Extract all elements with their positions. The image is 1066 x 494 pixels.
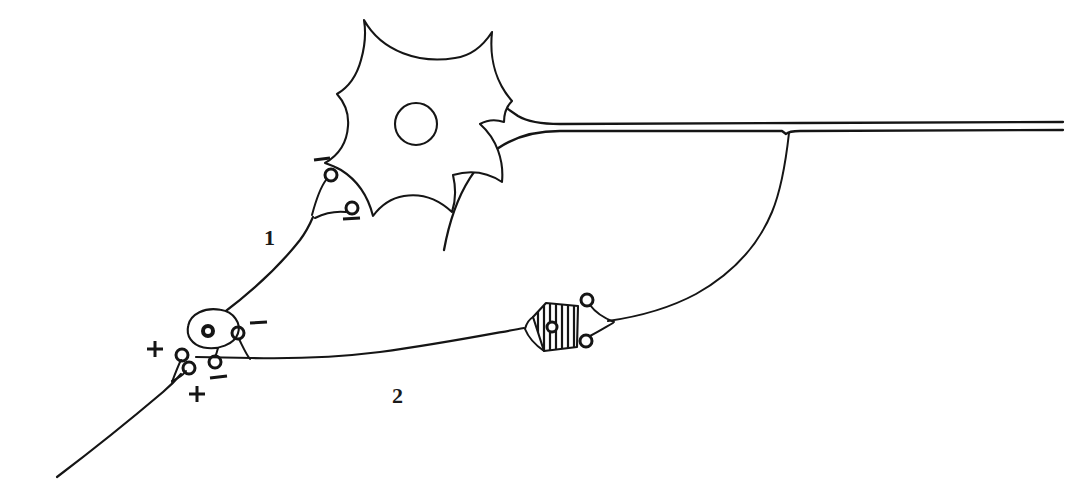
pathway-label-1: 1	[264, 225, 275, 250]
principal-axon	[444, 107, 1063, 250]
minus-sign-1	[250, 322, 267, 323]
bouton-excitatory-2	[183, 362, 195, 374]
interneuron-hatched-soma	[525, 298, 578, 356]
afferent-axon-input	[57, 341, 205, 477]
diagram-canvas: 1 2	[0, 0, 1066, 494]
plus-sign-1	[147, 341, 163, 357]
bouton-excitatory-1	[176, 349, 188, 361]
plus-sign-2	[189, 386, 205, 402]
interneuron-hatched-nucleus	[547, 322, 557, 332]
recurrent-collateral	[608, 133, 789, 321]
bouton-hatched-lower	[580, 335, 592, 347]
synapse-inhibitory-4	[315, 202, 360, 219]
hatched-cell-outputs	[580, 294, 614, 347]
neuron-diagram: 1 2	[0, 0, 1066, 494]
pathway-label-2: 2	[392, 383, 403, 408]
principal-neuron-soma	[325, 20, 512, 216]
synapse-inhibitory-2	[209, 348, 227, 378]
bouton-inhibitory-3	[325, 169, 337, 181]
minus-sign-4	[343, 218, 360, 219]
bouton-inhibitory-4	[346, 202, 358, 214]
synapse-inhibitory-1	[232, 322, 267, 359]
minus-sign-2	[210, 376, 227, 378]
bouton-hatched-upper	[581, 294, 593, 306]
minus-sign-3	[314, 158, 330, 160]
